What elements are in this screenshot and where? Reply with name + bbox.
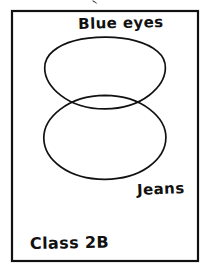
- crop-mark-icon: [93, 0, 98, 4]
- venn-diagram-sheet: Blue eyes Jeans Class 2B: [0, 0, 209, 270]
- worksheet-border: [12, 11, 198, 261]
- label-class-caption: Class 2B: [30, 233, 109, 253]
- label-blue-eyes: Blue eyes: [78, 13, 164, 33]
- label-jeans: Jeans: [136, 179, 185, 199]
- worksheet-canvas: Blue eyes Jeans Class 2B: [0, 0, 209, 270]
